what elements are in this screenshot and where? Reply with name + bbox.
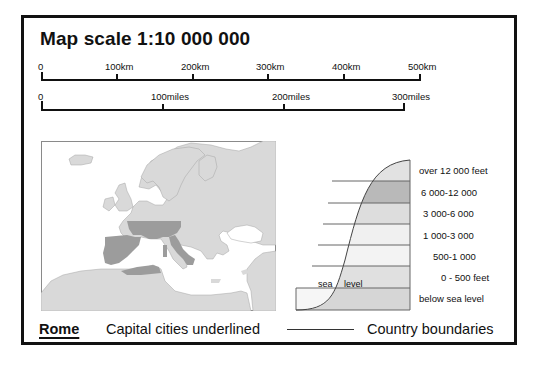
- capital-legend-text: Capital cities underlined: [106, 321, 260, 337]
- band-label-6000-12000: 6 000-12 000: [421, 187, 477, 198]
- boundary-legend-text: Country boundaries: [367, 321, 494, 337]
- iceland-land: [69, 155, 93, 165]
- km-label-200: 200km: [181, 61, 210, 72]
- km-scale-bar: [42, 72, 420, 81]
- band-label-3000-6000: 3 000-6 000: [423, 208, 474, 219]
- boundary-line-sample: [287, 329, 354, 330]
- band-label-0-500: 0 - 500 feet: [441, 272, 489, 283]
- level-label: level: [344, 279, 363, 289]
- sea-label: sea: [318, 279, 333, 289]
- elevation-key-diagram: [290, 155, 415, 315]
- miles-scale-bar: [42, 101, 404, 111]
- capital-example-rome: Rome: [39, 321, 79, 337]
- miles-label-0: 0: [38, 91, 43, 102]
- miles-label-200: 200miles: [272, 91, 310, 102]
- band-label-1000-3000: 1 000-3 000: [423, 230, 474, 241]
- km-label-100: 100km: [105, 61, 134, 72]
- miles-label-100: 100miles: [151, 91, 189, 102]
- europe-locator-map: [41, 141, 276, 311]
- km-label-400: 400km: [332, 61, 361, 72]
- band-label-500-1000: 500-1 000: [433, 251, 476, 262]
- band-label-over-12000: over 12 000 feet: [419, 165, 488, 176]
- miles-label-300: 300miles: [392, 91, 430, 102]
- km-label-500: 500km: [408, 61, 437, 72]
- km-label-0: 0: [38, 61, 43, 72]
- km-label-300: 300km: [256, 61, 285, 72]
- band-label-below-sea-level: below sea level: [419, 293, 484, 304]
